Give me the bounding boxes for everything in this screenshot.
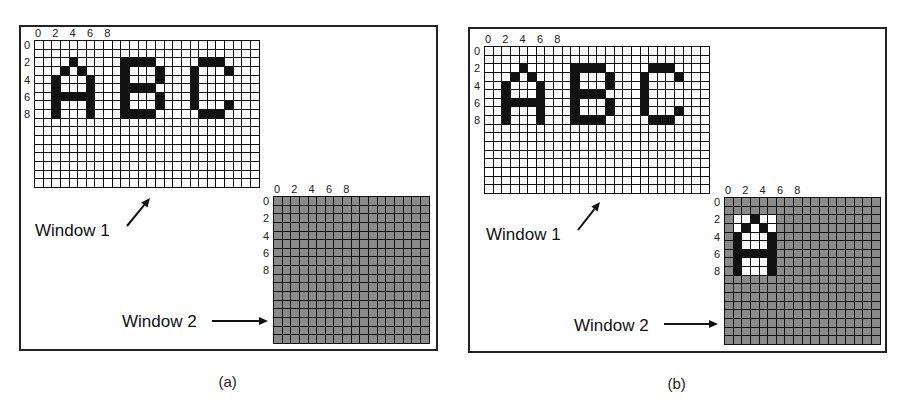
arrow-icon [0, 0, 897, 413]
panel-caption-b: (b) [668, 375, 686, 392]
